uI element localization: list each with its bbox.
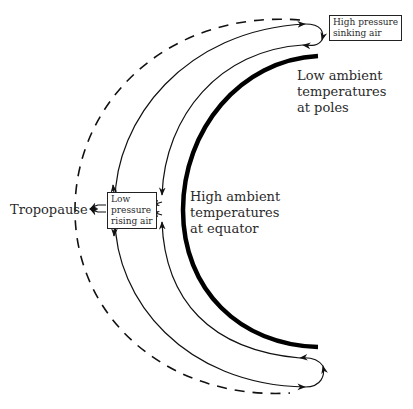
high-pressure-line-2: sinking air bbox=[333, 28, 398, 39]
high-pressure-box: High pressure sinking air bbox=[329, 15, 402, 41]
low-temp-label: Low ambient temperatures at poles bbox=[297, 68, 386, 116]
hadley-cell-diagram: Tropopause Low pressure rising air High … bbox=[0, 0, 413, 409]
high-temp-label: High ambient temperatures at equator bbox=[190, 189, 280, 237]
low-pressure-box: Low pressure rising air bbox=[107, 192, 157, 229]
low-pressure-line-1: Low bbox=[111, 194, 153, 205]
lower-inner-flow-arrow bbox=[162, 222, 300, 358]
high-pressure-line-1: High pressure bbox=[333, 17, 398, 28]
upper-outer-flow-arrow bbox=[115, 24, 305, 202]
low-pressure-line-2: pressure bbox=[111, 205, 153, 216]
lower-outer-flow-arrow bbox=[115, 218, 305, 387]
low-pressure-line-3: rising air bbox=[111, 216, 153, 227]
tropopause-label: Tropopause bbox=[10, 202, 88, 218]
